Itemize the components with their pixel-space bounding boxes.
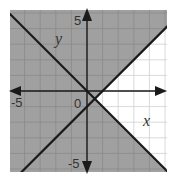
inequality-graph: 5 -5 -5 0 y x [0,0,173,182]
x-tick-neg5: -5 [11,95,23,110]
y-tick-5: 5 [74,13,81,28]
y-tick-neg5: -5 [68,156,80,171]
y-axis-label: y [53,30,63,48]
origin-label: 0 [74,96,81,111]
x-axis-label: x [142,112,150,129]
